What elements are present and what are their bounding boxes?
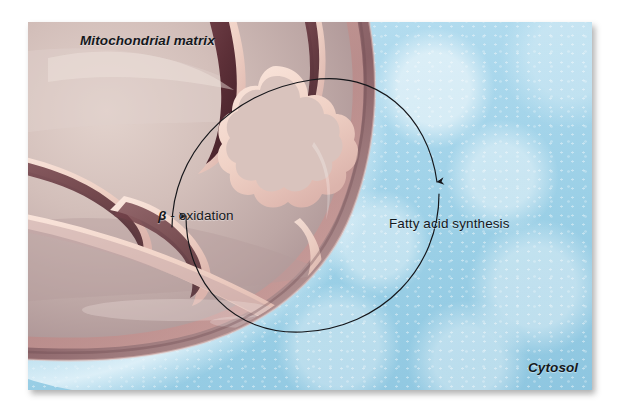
illustration-plate: Mitochondrial matrix β - oxidation Fatty… [28,22,592,390]
beta-oxidation-text: - oxidation [166,208,233,223]
label-cytosol: Cytosol [528,360,578,375]
label-fatty-acid-synthesis: Fatty acid synthesis [389,216,510,231]
label-mitochondrial-matrix: Mitochondrial matrix [80,33,215,48]
figure-canvas: Mitochondrial matrix β - oxidation Fatty… [0,0,620,415]
mitochondrion [28,22,592,390]
label-beta-oxidation: β - oxidation [158,208,234,223]
mitochondrion-illustration [28,22,592,390]
